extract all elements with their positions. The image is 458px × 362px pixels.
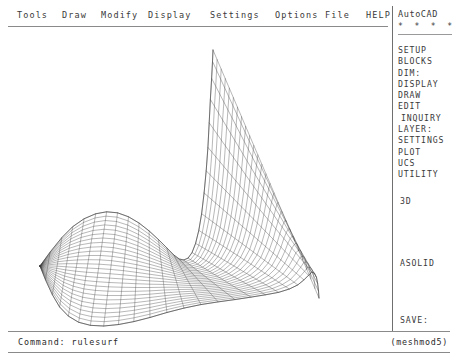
screen-menu-item-plot[interactable]: PLOT (398, 147, 458, 158)
screen-menu-item-dim[interactable]: DIM: (398, 68, 458, 79)
screen-menu-item-draw[interactable]: DRAW (398, 90, 458, 101)
screen-menu: AutoCAD * * * * SETUPBLOCKSDIM:DISPLAYDR… (398, 9, 458, 181)
screen-menu-item-ucs[interactable]: UCS (398, 158, 458, 169)
command-prompt[interactable]: Command: rulesurf (18, 337, 119, 347)
screen-menu-item-edit[interactable]: EDIT (398, 101, 458, 112)
screen-menu-item-inquiry[interactable]: INQUIRY (398, 113, 458, 124)
menu-item-tools[interactable]: Tools (17, 9, 48, 21)
screen-menu-item-display[interactable]: DISPLAY (398, 79, 458, 90)
menu-item-draw[interactable]: Draw (62, 9, 87, 21)
autocad-window: ToolsDrawModifyDisplaySettingsOptionsFil… (0, 0, 458, 362)
screen-menu-title: AutoCAD (398, 9, 458, 20)
screen-menu-items: SETUPBLOCKSDIM:DISPLAYDRAWEDITINQUIRYLAY… (398, 45, 458, 181)
command-line-bottom-rule (8, 352, 450, 353)
menu-bar: ToolsDrawModifyDisplaySettingsOptionsFil… (0, 9, 392, 27)
menu-item-help[interactable]: HELP (366, 9, 391, 21)
sidemenu-divider-vertical (392, 6, 393, 331)
menu-item-modify[interactable]: Modify (101, 9, 138, 21)
screen-menu-item-utility[interactable]: UTILITY (398, 169, 458, 180)
menu-item-settings[interactable]: Settings (210, 9, 260, 21)
menu-item-display[interactable]: Display (148, 9, 192, 21)
screen-menu-item-save[interactable]: SAVE: (400, 315, 429, 326)
drawing-canvas[interactable] (0, 28, 392, 330)
screen-menu-item-setup[interactable]: SETUP (398, 45, 458, 56)
rulesurf-mesh-surface (0, 28, 392, 330)
menu-item-options[interactable]: Options (275, 9, 319, 21)
screen-menu-item-layer[interactable]: LAYER: (398, 124, 458, 135)
screen-menu-item-blocks[interactable]: BLOCKS (398, 56, 458, 67)
menu-item-file[interactable]: File (325, 9, 350, 21)
screen-menu-item-settings[interactable]: SETTINGS (398, 135, 458, 146)
screen-menu-title-divider (398, 34, 452, 35)
screen-menu-dots: * * * * (398, 21, 458, 32)
screen-menu-item-asolid[interactable]: ASOLID (400, 258, 435, 269)
command-line-top-rule (8, 331, 450, 332)
command-status-label: (meshmod5) (391, 337, 448, 347)
screen-menu-item-3d[interactable]: 3D (400, 196, 412, 207)
menu-bar-divider (8, 26, 388, 27)
